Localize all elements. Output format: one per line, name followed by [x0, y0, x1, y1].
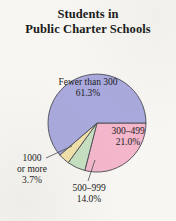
pie-label-fewer-than-300: Fewer than 300 61.3% — [34, 77, 142, 99]
pie-label-1000-or-more-name-line-1: 1000 — [1, 153, 63, 164]
pie-label-1000-or-more-pct: 3.7% — [1, 175, 63, 186]
pie-label-1000-or-more-name-line-2: or more — [1, 164, 63, 175]
pie-label-300-499-name: 300–499 — [98, 126, 158, 137]
pie-label-300-499-pct: 21.0% — [98, 137, 158, 148]
pie-label-fewer-than-300-pct: 61.3% — [34, 88, 142, 99]
pie-label-500-999: 500–999 14.0% — [52, 183, 126, 205]
chart-page: Students in Public Charter Schools Fewer… — [0, 0, 176, 221]
pie-label-fewer-than-300-name: Fewer than 300 — [34, 77, 142, 88]
pie-label-1000-or-more: 1000 or more 3.7% — [1, 153, 63, 186]
pie-label-300-499: 300–499 21.0% — [98, 126, 158, 148]
pie-label-500-999-pct: 14.0% — [52, 194, 126, 205]
pie-label-500-999-name: 500–999 — [52, 183, 126, 194]
